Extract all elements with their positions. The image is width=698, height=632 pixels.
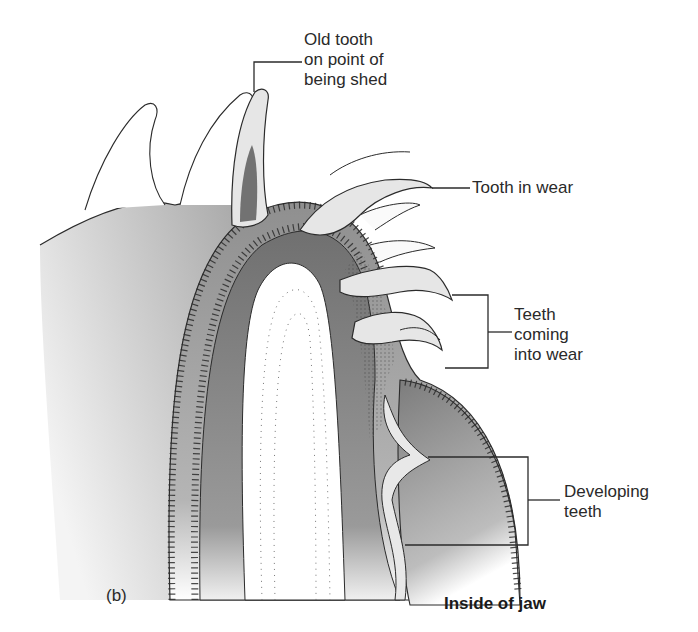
panel-label: (b): [106, 586, 127, 606]
figure-caption: Inside of jaw: [444, 594, 546, 614]
jaw-illustration: [0, 0, 698, 632]
label-tooth-in-wear: Tooth in wear: [472, 178, 573, 198]
developing-teeth-tissue: [398, 380, 520, 605]
label-developing-teeth: Developing teeth: [564, 482, 649, 522]
back-tooth-outline: [85, 103, 165, 210]
jaw-tooth-replacement-diagram: Old tooth on point of being shed Tooth i…: [0, 0, 698, 632]
label-old-tooth: Old tooth on point of being shed: [304, 30, 387, 90]
label-teeth-coming-into-wear: Teeth coming into wear: [514, 305, 583, 365]
